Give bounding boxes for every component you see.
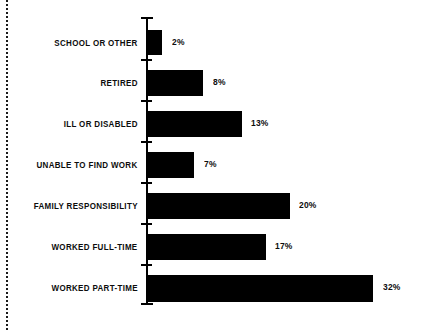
bar [148, 111, 242, 137]
bar [148, 275, 373, 302]
category-label: UNABLE TO FIND WORK [37, 161, 138, 170]
value-label: 8% [213, 78, 226, 87]
value-label: 17% [275, 242, 293, 251]
axis-cap-top [141, 17, 153, 19]
axis-cap-bottom [141, 303, 153, 305]
value-label: 20% [299, 201, 317, 210]
value-label: 2% [172, 38, 185, 47]
category-label: SCHOOL OR OTHER [55, 39, 138, 48]
category-label: WORKED PART-TIME [52, 284, 138, 293]
axis-tick [141, 182, 152, 184]
bar [148, 234, 266, 260]
axis-tick [141, 264, 152, 266]
bar [148, 152, 194, 178]
value-label: 7% [204, 160, 217, 169]
axis-tick [141, 223, 152, 225]
category-label: RETIRED [101, 79, 138, 88]
axis-tick [141, 100, 152, 102]
category-label: ILL OR DISABLED [64, 120, 138, 129]
bar [148, 30, 162, 55]
bar [148, 70, 203, 96]
axis-tick [141, 141, 152, 143]
category-label: FAMILY RESPONSIBILITY [34, 202, 138, 211]
bar [148, 193, 290, 219]
value-label: 32% [383, 283, 401, 292]
axis-tick [141, 59, 152, 61]
horizontal-bar-chart: SCHOOL OR OTHER 2% RETIRED 8% ILL OR DIS… [0, 0, 432, 330]
category-label: WORKED FULL-TIME [52, 243, 138, 252]
value-label: 13% [251, 119, 269, 128]
